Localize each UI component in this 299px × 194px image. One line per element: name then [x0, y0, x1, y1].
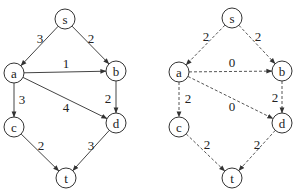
node-label: a — [11, 66, 17, 81]
edge-b-d: 2 — [272, 81, 282, 113]
edge-weight-label: 0 — [229, 99, 236, 114]
node-s: s — [55, 9, 75, 29]
node-t: t — [56, 168, 76, 188]
node-c: c — [4, 117, 24, 137]
edge-weight-label: 1 — [63, 56, 70, 71]
node-a: a — [169, 62, 189, 82]
flow-graph: 22020222sabcdt — [169, 8, 292, 188]
node-label: t — [64, 171, 68, 186]
edge-d-t: 3 — [73, 130, 110, 170]
capacity-graph: 32134223sabcdt — [4, 9, 126, 188]
edge-weight-label: 2 — [204, 137, 211, 152]
edge-a-c: 3 — [14, 83, 25, 117]
edge-weight-label: 4 — [63, 100, 70, 115]
edge-weight-label: 3 — [19, 92, 26, 107]
node-label: t — [230, 171, 234, 186]
edge-weight-label: 2 — [255, 29, 262, 44]
edge-a-d: 0 — [188, 76, 273, 118]
edge-s-b: 2 — [239, 25, 275, 63]
edge-s-a: 2 — [186, 25, 225, 65]
edge-b-d: 2 — [105, 81, 116, 113]
node-label: c — [176, 120, 182, 135]
node-label: s — [62, 12, 67, 27]
edge-weight-label: 2 — [272, 90, 279, 105]
node-s: s — [222, 8, 242, 28]
node-label: a — [176, 65, 182, 80]
edge-a-c: 2 — [179, 82, 191, 117]
node-a: a — [4, 63, 24, 83]
edge-weight-label: 2 — [88, 31, 95, 46]
edge-weight-label: 3 — [88, 138, 95, 153]
node-label: c — [11, 120, 17, 135]
edge-s-a: 3 — [21, 26, 58, 65]
node-d: d — [272, 113, 292, 133]
edge-line — [24, 71, 106, 73]
node-label: b — [279, 64, 286, 79]
node-c: c — [169, 117, 189, 137]
node-label: b — [113, 64, 120, 79]
edge-weight-label: 2 — [254, 137, 261, 152]
node-t: t — [222, 168, 242, 188]
edge-a-b: 1 — [24, 56, 106, 73]
edge-s-b: 2 — [72, 26, 109, 64]
edge-weight-label: 3 — [37, 31, 44, 46]
flow-network-diagram: 32134223sabcdt 22020222sabcdt — [0, 0, 299, 194]
node-label: s — [229, 11, 234, 26]
edge-d-t: 2 — [239, 130, 276, 170]
node-d: d — [106, 113, 126, 133]
edge-line — [189, 71, 272, 72]
edge-weight-label: 2 — [185, 91, 192, 106]
node-label: d — [279, 116, 286, 131]
edge-weight-label: 2 — [38, 138, 45, 153]
node-label: d — [113, 116, 120, 131]
edge-a-b: 0 — [189, 55, 272, 72]
edge-weight-label: 2 — [203, 29, 210, 44]
edge-weight-label: 2 — [105, 91, 112, 106]
edge-c-t: 2 — [21, 134, 59, 171]
node-b: b — [106, 61, 126, 81]
node-b: b — [272, 61, 292, 81]
edge-c-t: 2 — [186, 134, 225, 171]
edge-weight-label: 0 — [229, 55, 236, 70]
edge-a-d: 4 — [23, 77, 107, 118]
